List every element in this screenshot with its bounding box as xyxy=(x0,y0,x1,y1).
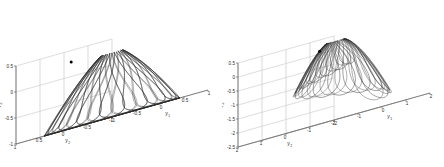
tick-label-x: 0.5 xyxy=(182,98,189,103)
axis-label-z: y3 xyxy=(222,102,225,107)
tick-label-y: 0.5 xyxy=(36,138,43,143)
tick-label-x: -0.5 xyxy=(133,111,141,116)
axis-lines xyxy=(236,63,430,149)
tick-label-z: 0.5 xyxy=(7,64,14,69)
tick-label-z: -0.5 xyxy=(5,116,13,121)
axis-label-z: y3 xyxy=(0,102,3,107)
tick-label-x: 0 xyxy=(382,108,385,113)
tick-label-y: -1 xyxy=(109,118,114,123)
axis-label-y: y2 xyxy=(287,140,292,148)
start-point-marker xyxy=(70,60,73,63)
svg-text:y3: y3 xyxy=(0,102,3,107)
tick-label-x: 0 xyxy=(160,105,163,110)
tick-label-y: 1 xyxy=(14,145,17,150)
svg-text:y1: y1 xyxy=(387,113,392,121)
axis-label-y: y2 xyxy=(65,137,70,145)
plot-panel-left: -1-0.500.5-1-0.500.51-1-0.500.51y3y1y2 xyxy=(0,0,222,167)
svg-text:y2: y2 xyxy=(287,140,292,148)
tick-label-y: 2 xyxy=(236,148,239,153)
svg-text:y3: y3 xyxy=(222,102,225,107)
figure-two-3d-trajectory-plots: -1-0.500.5-1-0.500.51-1-0.500.51y3y1y2 -… xyxy=(0,0,444,167)
plot-right-canvas: -2.5-2-1.5-1-0.500.5-2-1012-2-1012y3y1y2 xyxy=(222,0,444,167)
trajectory-curves xyxy=(293,39,391,100)
tick-label-x: 1 xyxy=(406,101,409,106)
tick-label-y: -0.5 xyxy=(83,125,91,130)
tick-label-x: 1 xyxy=(208,91,211,96)
tick-label-z: 0 xyxy=(10,90,13,95)
plot-panel-right: -2.5-2-1.5-1-0.500.5-2-1012-2-1012y3y1y2 xyxy=(222,0,444,167)
axis-lines xyxy=(14,66,208,146)
plot-left-canvas: -1-0.500.5-1-0.500.51-1-0.500.51y3y1y2 xyxy=(0,0,222,167)
tick-label-y: 0 xyxy=(62,132,65,137)
tick-label-z: 0 xyxy=(232,75,235,80)
axis-label-x: y1 xyxy=(165,110,170,118)
tick-label-x: -1 xyxy=(357,114,362,119)
tick-label-z: -0.5 xyxy=(227,89,235,94)
svg-text:y2: y2 xyxy=(65,137,70,145)
tick-labels: -1-0.500.5-1-0.500.51-1-0.500.51y3y1y2 xyxy=(0,64,211,150)
tick-label-z: -2.5 xyxy=(227,145,235,150)
tick-label-z: -2 xyxy=(231,131,236,136)
grid-lines xyxy=(238,36,430,147)
tick-label-y: 1 xyxy=(260,141,263,146)
svg-text:y1: y1 xyxy=(165,110,170,118)
tick-label-y: 0 xyxy=(284,135,287,140)
tick-label-z: 0.5 xyxy=(229,61,236,66)
tick-label-y: -1 xyxy=(307,128,312,133)
axis-label-x: y1 xyxy=(387,113,392,121)
tick-label-x: 2 xyxy=(430,94,433,99)
tick-label-z: -1 xyxy=(231,103,236,108)
tick-label-y: -2 xyxy=(331,121,336,126)
start-point-marker xyxy=(318,50,321,53)
tick-label-z: -1.5 xyxy=(227,117,235,122)
